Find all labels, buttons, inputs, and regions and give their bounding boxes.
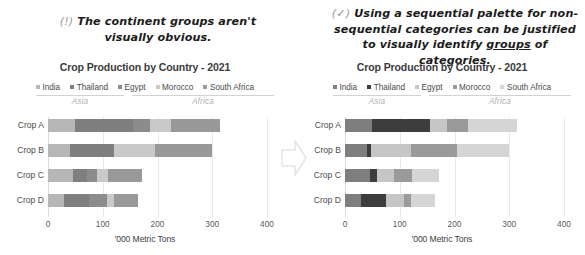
legend-swatch-icon — [415, 85, 419, 89]
bar-segment-morocco[interactable] — [447, 119, 468, 132]
bar-segment-india[interactable] — [48, 194, 64, 207]
bar-segment-south-africa[interactable] — [412, 169, 439, 182]
chart-row: Crop C — [303, 169, 581, 182]
x-axis: 0100200300400 — [6, 219, 284, 233]
bar-segment-morocco[interactable] — [150, 119, 171, 132]
group-underline — [132, 95, 274, 96]
legend-item-egypt[interactable]: Egypt — [118, 83, 145, 92]
bar-segment-egypt[interactable] — [87, 169, 97, 182]
chart-row: Crop A — [303, 119, 581, 132]
annotation-left-text: The continent groups aren't visually obv… — [77, 15, 256, 44]
category-label: Crop B — [6, 144, 44, 157]
stacked-bar[interactable] — [48, 144, 212, 157]
bar-segment-south-africa[interactable] — [155, 144, 212, 157]
bar-segment-morocco[interactable] — [411, 144, 458, 157]
legend-group-brackets: AsiaAfrica — [303, 95, 581, 111]
legend-item-morocco[interactable]: Morocco — [156, 83, 194, 92]
bar-segment-thailand[interactable] — [73, 169, 88, 182]
legend-item-south-africa[interactable]: South Africa — [203, 83, 254, 92]
chart-row: Crop B — [6, 144, 284, 157]
x-axis-tick: 300 — [205, 219, 219, 229]
bar-segment-morocco[interactable] — [97, 169, 108, 182]
bar-segment-south-africa[interactable] — [108, 169, 142, 182]
bar-segment-india[interactable] — [345, 144, 367, 157]
chart-legend: IndiaThailandEgyptMoroccoSouth Africa — [303, 80, 581, 94]
bar-segment-egypt[interactable] — [377, 169, 395, 182]
group-label: Asia — [333, 97, 421, 106]
legend-swatch-icon — [333, 85, 337, 89]
bar-segment-india[interactable] — [345, 169, 370, 182]
bar-segment-india[interactable] — [345, 194, 361, 207]
category-label: Crop A — [303, 119, 341, 132]
legend-swatch-icon — [70, 85, 74, 89]
legend-swatch-icon — [500, 85, 504, 89]
annotation-right-text-underlined: groups — [486, 38, 530, 51]
bar-segment-india[interactable] — [48, 169, 73, 182]
bar-segment-egypt[interactable] — [371, 144, 410, 157]
legend-item-india[interactable]: India — [36, 83, 60, 92]
bar-segment-india[interactable] — [345, 119, 372, 132]
x-axis-title: '000 Metric Tons — [6, 234, 284, 244]
chart-panel-right: Crop Production by Country - 2021IndiaTh… — [303, 60, 581, 255]
bar-segment-morocco[interactable] — [394, 169, 412, 182]
bar-segment-south-africa[interactable] — [411, 194, 436, 207]
group-label: Asia — [36, 97, 124, 106]
bar-segment-egypt[interactable] — [89, 194, 107, 207]
legend-swatch-icon — [367, 85, 371, 89]
x-axis-tick: 0 — [343, 219, 348, 229]
legend-item-morocco[interactable]: Morocco — [453, 83, 491, 92]
legend-item-thailand[interactable]: Thailand — [367, 83, 405, 92]
bar-segment-south-africa[interactable] — [114, 194, 139, 207]
bar-segment-thailand[interactable] — [372, 119, 429, 132]
bar-segment-india[interactable] — [48, 119, 75, 132]
warning-marker-icon: (!) — [60, 15, 74, 28]
legend-swatch-icon — [203, 85, 207, 89]
chart-row: Crop D — [303, 194, 581, 207]
bar-segment-south-africa[interactable] — [468, 119, 517, 132]
legend-label: Egypt — [125, 83, 146, 92]
stacked-bar[interactable] — [345, 169, 439, 182]
group-underline — [333, 95, 421, 96]
bar-segment-thailand[interactable] — [70, 144, 114, 157]
annotation-left: (!) The continent groups aren't visually… — [52, 14, 264, 45]
stacked-bar[interactable] — [345, 144, 509, 157]
plot-area: Crop ACrop BCrop CCrop D — [303, 117, 581, 217]
group-label: Africa — [429, 97, 571, 106]
bar-segment-south-africa[interactable] — [457, 144, 509, 157]
stacked-bar[interactable] — [345, 119, 517, 132]
bar-segment-india[interactable] — [48, 144, 70, 157]
chart-title: Crop Production by Country - 2021 — [303, 60, 581, 74]
x-axis-tick: 200 — [448, 219, 462, 229]
bar-segment-thailand[interactable] — [370, 169, 377, 182]
x-axis-tick: 300 — [502, 219, 516, 229]
legend-group-africa: Africa — [132, 95, 274, 106]
legend-swatch-icon — [118, 85, 122, 89]
bar-segment-morocco[interactable] — [114, 144, 155, 157]
bar-segment-egypt[interactable] — [133, 119, 151, 132]
x-axis-tick: 200 — [151, 219, 165, 229]
slide-canvas: (!) The continent groups aren't visually… — [0, 0, 585, 255]
legend-item-south-africa[interactable]: South Africa — [500, 83, 551, 92]
group-underline — [36, 95, 124, 96]
legend-label: Thailand — [374, 83, 405, 92]
group-label: Africa — [132, 97, 274, 106]
bar-segment-south-africa[interactable] — [171, 119, 220, 132]
x-axis-tick: 400 — [260, 219, 274, 229]
legend-item-egypt[interactable]: Egypt — [415, 83, 442, 92]
stacked-bar[interactable] — [48, 169, 142, 182]
legend-label: South Africa — [210, 83, 254, 92]
bar-segment-egypt[interactable] — [430, 119, 448, 132]
annotation-right: (✓) Using a sequential palette for non-s… — [330, 6, 580, 68]
legend-label: Egypt — [422, 83, 443, 92]
bar-segment-thailand[interactable] — [75, 119, 132, 132]
bar-segment-thailand[interactable] — [64, 194, 89, 207]
x-axis-tick: 100 — [393, 219, 407, 229]
stacked-bar[interactable] — [345, 194, 435, 207]
bar-segment-thailand[interactable] — [361, 194, 386, 207]
bar-segment-egypt[interactable] — [386, 194, 404, 207]
legend-item-india[interactable]: India — [333, 83, 357, 92]
stacked-bar[interactable] — [48, 119, 220, 132]
legend-item-thailand[interactable]: Thailand — [70, 83, 108, 92]
chart-legend: IndiaThailandEgyptMoroccoSouth Africa — [6, 80, 284, 94]
stacked-bar[interactable] — [48, 194, 138, 207]
